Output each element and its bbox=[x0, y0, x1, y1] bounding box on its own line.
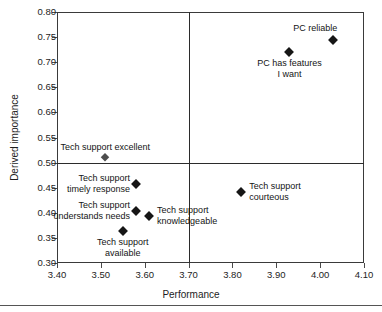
scatter-chart: Performance Derived importance 0.300.350… bbox=[0, 0, 382, 312]
x-tick-mark bbox=[364, 263, 365, 268]
x-tick-mark bbox=[232, 263, 233, 268]
y-tick-label: 0.50 bbox=[20, 158, 56, 168]
x-tick-label: 3.50 bbox=[81, 270, 121, 280]
data-point-label: Tech support excellent bbox=[30, 142, 180, 153]
data-point-label: Tech support courteous bbox=[249, 181, 379, 202]
y-tick-label: 0.60 bbox=[20, 107, 56, 117]
data-point-label: PC has features I want bbox=[214, 58, 364, 79]
y-tick-label: 0.70 bbox=[20, 57, 56, 67]
x-tick-mark bbox=[101, 263, 102, 268]
x-tick-label: 3.40 bbox=[37, 270, 77, 280]
data-point-label: Tech support knowledgeable bbox=[157, 205, 287, 226]
y-tick-label: 0.55 bbox=[20, 133, 56, 143]
data-point-label: Tech support available bbox=[48, 237, 198, 258]
y-tick-label: 0.65 bbox=[20, 82, 56, 92]
horizontal-reference-line bbox=[57, 163, 364, 164]
y-tick-label: 0.75 bbox=[20, 32, 56, 42]
x-tick-mark bbox=[189, 263, 190, 268]
x-tick-mark bbox=[276, 263, 277, 268]
y-tick-label: 0.30 bbox=[20, 258, 56, 268]
x-tick-mark bbox=[57, 263, 58, 268]
x-axis-title: Performance bbox=[0, 289, 382, 300]
data-point-label: Tech support timely response bbox=[0, 173, 130, 194]
x-tick-mark bbox=[145, 263, 146, 268]
bottom-divider bbox=[0, 305, 382, 306]
x-tick-label: 4.00 bbox=[300, 270, 340, 280]
x-tick-label: 3.80 bbox=[212, 270, 252, 280]
x-tick-label: 3.90 bbox=[256, 270, 296, 280]
x-tick-mark bbox=[320, 263, 321, 268]
x-tick-label: 4.10 bbox=[344, 270, 382, 280]
x-tick-label: 3.70 bbox=[169, 270, 209, 280]
data-point-label: Tech support understands needs bbox=[0, 200, 130, 221]
x-tick-label: 3.60 bbox=[125, 270, 165, 280]
data-point-label: PC reliable bbox=[217, 23, 337, 34]
y-tick-label: 0.80 bbox=[20, 7, 56, 17]
